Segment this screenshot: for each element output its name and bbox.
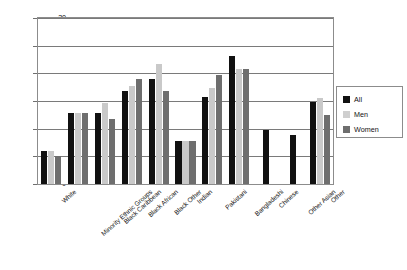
bar-women-black-african xyxy=(136,79,142,184)
gridline xyxy=(38,73,333,74)
bar-women-minority-ethnic-groups xyxy=(82,113,88,184)
legend-swatch-all-icon xyxy=(343,96,350,103)
bar-women-indian xyxy=(189,141,195,184)
legend-swatch-women-icon xyxy=(343,126,350,133)
bar-all-other-asian xyxy=(290,135,296,184)
plot-area xyxy=(38,18,333,184)
bar-men-white xyxy=(48,151,54,184)
legend-swatch-men-icon xyxy=(343,111,350,118)
bar-all-minority-ethnic-groups xyxy=(68,113,74,184)
bar-all-chinese xyxy=(263,130,269,184)
gridline xyxy=(38,101,333,102)
bar-men-minority-ethnic-groups xyxy=(75,113,81,184)
legend-item-all: All xyxy=(343,92,402,107)
bar-all-other xyxy=(310,102,316,184)
bar-men-black-african xyxy=(129,86,135,184)
gridline xyxy=(38,18,333,19)
bar-men-black-caribbean xyxy=(102,103,108,184)
bar-chart: 051015202530 WhiteMinority Ethnic Groups… xyxy=(0,0,407,270)
bar-women-pakistani xyxy=(216,75,222,184)
bar-men-bangladeshi xyxy=(236,69,242,184)
bar-women-bangladeshi xyxy=(243,69,249,184)
gridline xyxy=(38,46,333,47)
legend-item-men: Men xyxy=(343,107,402,122)
bar-all-indian xyxy=(175,141,181,184)
legend-label-all: All xyxy=(354,96,362,103)
bar-all-bangladeshi xyxy=(229,56,235,184)
bar-all-white xyxy=(41,151,47,184)
x-axis-tick-label: Pakistani xyxy=(224,188,248,211)
bar-all-black-other xyxy=(149,79,155,184)
bar-women-black-other xyxy=(163,91,169,184)
bar-women-black-caribbean xyxy=(109,119,115,184)
plot-frame xyxy=(37,17,334,185)
bar-women-white xyxy=(55,156,61,184)
legend-label-men: Men xyxy=(354,111,368,118)
bar-women-other xyxy=(324,115,330,184)
bar-men-other xyxy=(317,98,323,184)
x-axis-tick-label: White xyxy=(61,188,78,204)
bar-men-pakistani xyxy=(209,88,215,184)
legend-label-women: Women xyxy=(354,126,379,133)
bar-all-pakistani xyxy=(202,97,208,184)
legend: All Men Women xyxy=(336,86,403,138)
bar-men-black-other xyxy=(156,64,162,184)
bar-all-black-caribbean xyxy=(95,113,101,184)
bar-men-indian xyxy=(182,141,188,184)
bar-all-black-african xyxy=(122,91,128,184)
legend-item-women: Women xyxy=(343,122,402,137)
